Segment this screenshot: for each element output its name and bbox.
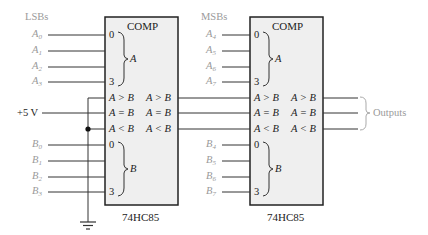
lsb-out-lt: A < B [146, 124, 171, 135]
lsb-b-bus-label: B [130, 164, 136, 175]
input-label-b5: B5 [206, 155, 216, 167]
outputs-label: Outputs [373, 108, 406, 119]
lsb-cascade-in-lt: A < B [109, 124, 134, 135]
outputs-brace [360, 97, 370, 130]
lsb-a-input-wires [48, 35, 105, 82]
input-label-a5: A5 [206, 45, 216, 57]
supply-label: +5 V [17, 108, 38, 119]
lsbs-label: LSBs [25, 12, 48, 23]
msb-out-gt: A > B [291, 93, 316, 104]
lsb-out-eq: A = B [146, 108, 171, 119]
lsb-part-number: 74HC85 [122, 211, 159, 223]
lsb-pin-b0: 0 [109, 140, 114, 151]
lsb-out-gt: A > B [146, 93, 171, 104]
lsb-b-input-wires [48, 145, 105, 192]
input-label-b1: B1 [32, 155, 42, 167]
lsb-pin-b3: 3 [109, 187, 114, 198]
lsb-pin-a0: 0 [109, 30, 114, 41]
input-label-a6: A6 [206, 61, 216, 73]
msb-b-input-wires [222, 145, 250, 192]
input-label-a4: A4 [206, 29, 216, 41]
input-label-b6: B6 [206, 171, 216, 183]
output-wires [323, 98, 358, 129]
msb-b-bus-label: B [275, 164, 281, 175]
msb-out-eq: A = B [291, 108, 316, 119]
msb-cascade-in-eq: A = B [254, 108, 279, 119]
input-label-a1: A1 [32, 45, 42, 57]
input-label-b2: B2 [32, 171, 42, 183]
msb-pin-b3: 3 [254, 187, 259, 198]
msb-cascade-in-lt: A < B [254, 124, 279, 135]
msb-chip-title: COMP [272, 20, 303, 32]
input-label-b7: B7 [206, 186, 216, 198]
msb-pin-a3: 3 [254, 77, 259, 88]
lsb-cascade-wiring [42, 98, 105, 222]
input-label-a0: A0 [32, 29, 42, 41]
ground-icon [80, 222, 96, 229]
lsb-pin-a3: 3 [109, 77, 114, 88]
msb-part-number: 74HC85 [267, 211, 304, 223]
msb-out-lt: A < B [291, 124, 316, 135]
lsb-chip-title: COMP [127, 20, 158, 32]
msb-a-bus-label: A [275, 54, 281, 65]
msbs-label: MSBs [201, 12, 227, 23]
cascade-connection-wires [178, 98, 250, 129]
input-label-a2: A2 [32, 61, 42, 73]
input-label-b0: B0 [32, 139, 42, 151]
junction-dot [85, 126, 90, 131]
input-label-a7: A7 [206, 76, 216, 88]
lsb-cascade-in-gt: A > B [109, 93, 134, 104]
input-label-b4: B4 [206, 139, 216, 151]
msb-a-input-wires [222, 35, 250, 82]
input-label-b3: B3 [32, 186, 42, 198]
msb-cascade-in-gt: A > B [254, 93, 279, 104]
input-label-a3: A3 [32, 76, 42, 88]
msb-pin-a0: 0 [254, 30, 259, 41]
lsb-cascade-in-eq: A = B [109, 108, 134, 119]
msb-pin-b0: 0 [254, 140, 259, 151]
lsb-a-bus-label: A [130, 54, 136, 65]
